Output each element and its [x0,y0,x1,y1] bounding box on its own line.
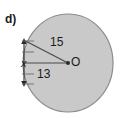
center-point-dot [66,61,70,65]
center-point-label: O [71,56,80,68]
geometry-figure-d: d) 15 13 x O [0,0,122,118]
distance-length-label: 13 [37,68,50,80]
figure-canvas [0,0,122,118]
unknown-length-label: x [21,58,27,69]
radius-length-label: 15 [50,36,63,48]
part-label: d) [5,13,16,25]
